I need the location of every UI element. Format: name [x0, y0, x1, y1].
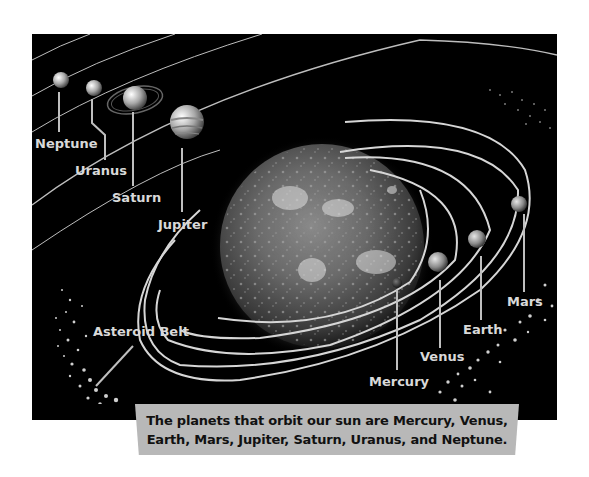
asteroid-belt-label: Asteroid Belt — [93, 324, 189, 339]
earth-label: Earth — [463, 322, 503, 337]
neptune-label: Neptune — [35, 136, 98, 151]
caption-text: The planets that orbit our sun are Mercu… — [146, 411, 508, 449]
caption-box: The planets that orbit our sun are Mercu… — [135, 404, 519, 455]
jupiter-label: Jupiter — [157, 217, 208, 232]
mercury-planet — [392, 278, 402, 288]
venus-planet — [428, 252, 448, 272]
uranus-label: Uranus — [75, 163, 127, 178]
earth-planet — [468, 230, 486, 248]
saturn-label: Saturn — [112, 190, 161, 205]
mercury-label: Mercury — [369, 374, 430, 389]
caption-line-2: Earth, Mars, Jupiter, Saturn, Uranus, an… — [147, 432, 508, 447]
venus-label: Venus — [420, 349, 465, 364]
mars-planet — [511, 196, 527, 212]
mars-label: Mars — [507, 294, 543, 309]
caption-line-1: The planets that orbit our sun are Mercu… — [146, 413, 508, 428]
jupiter-planet — [170, 105, 204, 139]
neptune-planet — [53, 72, 69, 88]
uranus-planet — [86, 80, 102, 96]
